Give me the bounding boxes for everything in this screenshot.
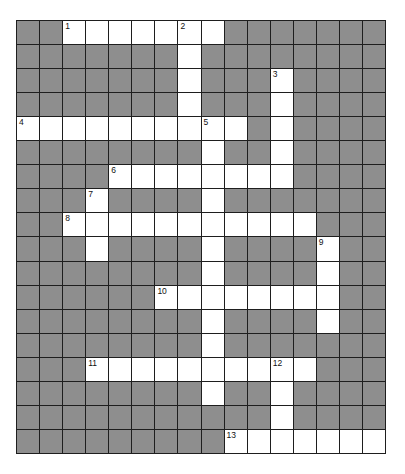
crossword-cell-open[interactable] (178, 69, 200, 92)
crossword-cell-open[interactable] (178, 45, 200, 68)
crossword-cell-open[interactable] (271, 141, 293, 164)
crossword-cell-open[interactable] (225, 117, 247, 140)
crossword-cell-block (155, 262, 177, 285)
crossword-cell-open[interactable] (225, 165, 247, 188)
crossword-cell-open[interactable] (294, 358, 316, 381)
crossword-cell-open[interactable] (202, 334, 224, 357)
crossword-cell-open[interactable] (271, 213, 293, 236)
crossword-cell-open[interactable] (202, 382, 224, 405)
crossword-cell-open[interactable] (178, 286, 200, 309)
crossword-cell-open[interactable] (294, 430, 316, 453)
crossword-cell-open[interactable]: 1 (63, 21, 85, 44)
crossword-cell-block (40, 334, 62, 357)
crossword-cell-open[interactable] (63, 117, 85, 140)
crossword-cell-open[interactable]: 13 (225, 430, 247, 453)
crossword-cell-open[interactable] (271, 430, 293, 453)
crossword-cell-open[interactable] (248, 430, 270, 453)
crossword-cell-open[interactable]: 10 (155, 286, 177, 309)
crossword-cell-open[interactable] (317, 430, 339, 453)
crossword-cell-open[interactable] (202, 165, 224, 188)
crossword-cell-open[interactable] (109, 117, 131, 140)
crossword-cell-open[interactable] (132, 213, 154, 236)
crossword-cell-open[interactable] (271, 93, 293, 116)
crossword-cell-open[interactable] (294, 213, 316, 236)
crossword-cell-block (317, 382, 339, 405)
crossword-cell-open[interactable] (225, 358, 247, 381)
crossword-cell-block (40, 45, 62, 68)
crossword-cell-block (317, 93, 339, 116)
crossword-cell-block (317, 334, 339, 357)
crossword-cell-open[interactable] (178, 93, 200, 116)
crossword-cell-open[interactable] (132, 358, 154, 381)
crossword-cell-open[interactable] (178, 165, 200, 188)
crossword-cell-open[interactable]: 4 (17, 117, 39, 140)
crossword-cell-open[interactable] (202, 21, 224, 44)
crossword-cell-open[interactable] (86, 237, 108, 260)
crossword-cell-open[interactable]: 12 (271, 358, 293, 381)
crossword-cell-open[interactable] (86, 213, 108, 236)
crossword-cell-block (40, 141, 62, 164)
crossword-cell-open[interactable] (178, 213, 200, 236)
crossword-cell-open[interactable] (317, 286, 339, 309)
crossword-cell-open[interactable] (271, 286, 293, 309)
crossword-cell-open[interactable] (202, 310, 224, 333)
crossword-cell-open[interactable] (202, 286, 224, 309)
crossword-cell-open[interactable]: 9 (317, 237, 339, 260)
crossword-cell-open[interactable] (155, 117, 177, 140)
crossword-cell-block (63, 93, 85, 116)
crossword-cell-open[interactable]: 2 (178, 21, 200, 44)
crossword-cell-open[interactable] (271, 406, 293, 429)
crossword-cell-open[interactable] (86, 21, 108, 44)
crossword-cell-open[interactable] (155, 213, 177, 236)
crossword-cell-open[interactable] (248, 358, 270, 381)
crossword-cell-open[interactable] (248, 213, 270, 236)
crossword-cell-open[interactable] (132, 21, 154, 44)
crossword-cell-open[interactable] (294, 286, 316, 309)
crossword-cell-open[interactable] (40, 117, 62, 140)
crossword-cell-open[interactable] (86, 117, 108, 140)
crossword-cell-open[interactable] (225, 286, 247, 309)
crossword-cell-open[interactable] (109, 21, 131, 44)
crossword-cell-open[interactable] (202, 213, 224, 236)
crossword-cell-open[interactable] (109, 358, 131, 381)
crossword-cell-open[interactable]: 5 (202, 117, 224, 140)
crossword-cell-open[interactable] (178, 358, 200, 381)
crossword-cell-open[interactable] (132, 165, 154, 188)
crossword-cell-open[interactable] (271, 117, 293, 140)
crossword-cell-block (63, 286, 85, 309)
crossword-cell-block (155, 237, 177, 260)
crossword-cell-open[interactable] (363, 430, 385, 453)
crossword-cell-open[interactable] (202, 237, 224, 260)
crossword-cell-block (178, 189, 200, 212)
clue-number: 1 (65, 22, 70, 31)
crossword-cell-open[interactable] (340, 430, 362, 453)
crossword-cell-open[interactable]: 6 (109, 165, 131, 188)
crossword-cell-open[interactable] (155, 358, 177, 381)
crossword-cell-open[interactable]: 11 (86, 358, 108, 381)
crossword-cell-open[interactable] (317, 310, 339, 333)
crossword-cell-open[interactable]: 7 (86, 189, 108, 212)
crossword-cell-block (155, 93, 177, 116)
crossword-cell-open[interactable] (178, 117, 200, 140)
crossword-cell-open[interactable]: 8 (63, 213, 85, 236)
crossword-cell-open[interactable]: 3 (271, 69, 293, 92)
crossword-cell-open[interactable] (109, 213, 131, 236)
crossword-cell-open[interactable] (202, 262, 224, 285)
crossword-cell-block (202, 69, 224, 92)
crossword-cell-open[interactable] (248, 286, 270, 309)
crossword-cell-open[interactable] (225, 213, 247, 236)
crossword-cell-block (363, 189, 385, 212)
crossword-cell-open[interactable] (202, 141, 224, 164)
crossword-cell-open[interactable] (155, 165, 177, 188)
crossword-cell-open[interactable] (202, 189, 224, 212)
crossword-cell-open[interactable] (271, 165, 293, 188)
crossword-cell-block (86, 93, 108, 116)
crossword-cell-block (363, 310, 385, 333)
crossword-cell-open[interactable] (317, 262, 339, 285)
crossword-cell-open[interactable] (202, 358, 224, 381)
crossword-cell-open[interactable] (271, 382, 293, 405)
crossword-cell-open[interactable] (132, 117, 154, 140)
crossword-cell-open[interactable] (248, 165, 270, 188)
crossword-cell-block (17, 213, 39, 236)
crossword-cell-open[interactable] (155, 21, 177, 44)
